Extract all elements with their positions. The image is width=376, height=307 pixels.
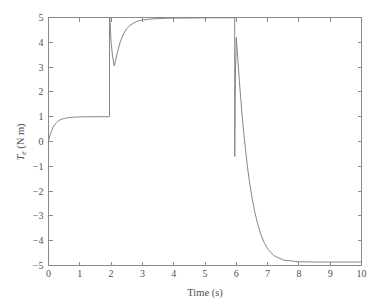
y-axis-title: Te (N m) — [15, 123, 28, 161]
x-tick-label: 1 — [77, 268, 82, 279]
y-tick-label: 3 — [39, 62, 44, 73]
y-tick-label: −4 — [33, 235, 44, 246]
y-axis-tick-labels: −5−4−3−2−1012345 — [33, 12, 44, 271]
y-tick-label: 2 — [39, 86, 44, 97]
x-tick-label: 2 — [109, 268, 114, 279]
y-tick-label: −5 — [33, 260, 44, 271]
plot-canvas: 012345678910 −5−4−3−2−1012345 Time (s) T… — [0, 0, 376, 307]
x-tick-label: 5 — [203, 268, 208, 279]
y-axis-ticks — [49, 18, 362, 266]
x-tick-label: 10 — [357, 268, 367, 279]
series-te — [49, 18, 362, 263]
y-tick-label: 0 — [39, 136, 44, 147]
y-tick-label: 5 — [39, 12, 44, 23]
x-tick-label: 0 — [46, 268, 51, 279]
svg-text:Time (s): Time (s) — [187, 287, 223, 299]
x-tick-label: 3 — [140, 268, 145, 279]
x-axis-title: Time (s) — [187, 287, 223, 299]
x-axis-tick-labels: 012345678910 — [46, 268, 367, 279]
y-tick-label: −2 — [33, 186, 44, 197]
x-tick-label: 6 — [234, 268, 239, 279]
x-tick-label: 4 — [171, 268, 176, 279]
y-tick-label: −1 — [33, 161, 44, 172]
figure-container: 012345678910 −5−4−3−2−1012345 Time (s) T… — [0, 0, 376, 307]
svg-text:Te (N m): Te (N m) — [15, 123, 28, 161]
y-tick-label: −3 — [33, 210, 44, 221]
x-axis-ticks — [49, 18, 362, 266]
y-tick-label: 4 — [39, 37, 44, 48]
x-tick-label: 7 — [265, 268, 270, 279]
axes-frame — [49, 18, 362, 266]
x-tick-label: 8 — [296, 268, 301, 279]
x-tick-label: 9 — [328, 268, 333, 279]
y-tick-label: 1 — [39, 111, 44, 122]
